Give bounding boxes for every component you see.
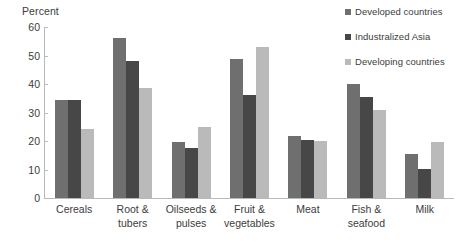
y-axis-tick-label: 20 <box>28 136 40 147</box>
bar <box>431 142 444 198</box>
x-axis-category-label: Oilseeds &pulses <box>162 203 220 245</box>
y-axis-tick-label: 50 <box>28 50 40 61</box>
bar <box>68 100 81 198</box>
legend-swatch-icon <box>345 34 351 40</box>
bar <box>230 59 243 198</box>
bar <box>301 140 314 198</box>
bar <box>55 100 68 198</box>
bar <box>81 129 94 198</box>
x-axis-category-label: Fruit &vegetables <box>220 203 278 245</box>
y-axis-tick-label: 10 <box>28 164 40 175</box>
y-axis-tick-labels: 6050403020100 <box>16 0 40 245</box>
bar <box>139 88 152 198</box>
x-axis-category-label: Milk <box>396 203 454 245</box>
bar <box>185 148 198 198</box>
y-axis-tick-label: 40 <box>28 79 40 90</box>
chart-legend: Developed countriesIndustralized AsiaDev… <box>345 6 462 81</box>
y-axis-tick-mark <box>44 27 48 28</box>
y-axis-tick-mark <box>44 84 48 85</box>
legend-item-label: Industralized Asia <box>355 31 430 42</box>
bar <box>172 142 185 198</box>
legend-item: Developed countries <box>345 6 462 17</box>
bar <box>405 154 418 198</box>
x-axis-category-label: Fish &seafood <box>337 203 395 245</box>
y-axis-tick-mark <box>44 113 48 114</box>
bar <box>126 61 139 198</box>
bar-group <box>103 27 161 198</box>
y-axis-tick-mark <box>44 170 48 171</box>
bar <box>113 38 126 198</box>
legend-item: Developing countries <box>345 56 462 67</box>
bar-group <box>162 27 220 198</box>
x-axis-line <box>44 198 454 199</box>
bar <box>243 95 256 198</box>
x-axis-category-label: Cereals <box>45 203 103 245</box>
bar-group <box>279 27 337 198</box>
x-axis-category-labels: CerealsRoot &tubersOilseeds &pulsesFruit… <box>45 203 454 245</box>
legend-item-label: Developing countries <box>355 56 445 67</box>
bar <box>198 127 211 198</box>
bar-group <box>220 27 278 198</box>
y-axis-tick-label: 30 <box>28 107 40 118</box>
y-axis-tick-mark <box>44 56 48 57</box>
x-axis-category-label: Meat <box>279 203 337 245</box>
x-axis-category-label: Root &tubers <box>103 203 161 245</box>
bar-chart: Percent 6050403020100 CerealsRoot &tuber… <box>0 0 462 245</box>
legend-swatch-icon <box>345 59 351 65</box>
legend-item: Industralized Asia <box>345 31 462 42</box>
legend-swatch-icon <box>345 9 351 15</box>
bar <box>314 141 327 198</box>
bar-group <box>45 27 103 198</box>
bar <box>418 169 431 198</box>
bar <box>347 84 360 198</box>
bar <box>288 136 301 198</box>
legend-item-label: Developed countries <box>355 6 443 17</box>
bar <box>360 97 373 198</box>
y-axis-tick-label: 0 <box>34 193 40 204</box>
bar <box>256 47 269 198</box>
y-axis-tick-label: 60 <box>28 22 40 33</box>
y-axis-tick-mark <box>44 141 48 142</box>
bar <box>373 110 386 198</box>
